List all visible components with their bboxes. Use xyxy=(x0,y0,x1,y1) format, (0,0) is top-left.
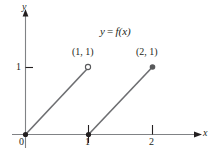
function-equation-label: y = f(x) xyxy=(100,26,131,37)
x-tick-label-1: 1 xyxy=(85,137,90,147)
function-argument: (x) xyxy=(119,25,131,37)
function-operator: = xyxy=(105,25,116,37)
x-axis-arrowhead xyxy=(194,132,202,138)
y-tick-label-1: 1 xyxy=(16,62,21,72)
x-axis-label: x xyxy=(203,128,207,138)
x-tick-label-2: 2 xyxy=(149,137,154,147)
segment2-end-marker xyxy=(150,64,156,70)
figure-canvas: y x 0 1 1 2 (1, 1) (2, 1) y = f(x) xyxy=(0,0,215,161)
function-segment-1 xyxy=(26,69,88,135)
y-axis-label: y xyxy=(22,2,26,12)
function-segment-2 xyxy=(89,68,153,135)
point-label-a: (1, 1) xyxy=(72,47,94,57)
origin-label: 0 xyxy=(19,137,24,147)
open-endpoint-marker xyxy=(85,64,90,69)
point-label-b: (2, 1) xyxy=(136,47,158,57)
